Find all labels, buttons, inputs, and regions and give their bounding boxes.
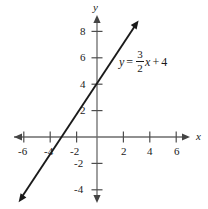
- coordinate-plane: [0, 0, 208, 209]
- equation-annotation: y = 3 2 x + 4: [119, 49, 167, 74]
- equation-variable: x: [145, 56, 150, 68]
- graph-figure: -6 -4 -2 2 4 6 8 6 4 2 -2 -4 x y y = 3 2…: [0, 0, 208, 209]
- x-axis-arrow-left: [14, 133, 22, 140]
- y-tick-label-4: 4: [80, 79, 86, 90]
- equation-constant: 4: [161, 56, 167, 68]
- y-axis-arrow-down: [93, 195, 100, 203]
- x-tick-label-4: 4: [147, 146, 153, 157]
- x-tick-label-6: 6: [174, 146, 180, 157]
- x-axis-arrow-right: [182, 133, 190, 140]
- y-tick-label--2: -2: [74, 158, 83, 169]
- line-arrow-upper-right: [131, 21, 139, 30]
- y-tick-label--4: -4: [74, 184, 83, 195]
- x-tick-label-2: 2: [121, 146, 127, 157]
- equation-fraction: 3 2: [136, 49, 144, 74]
- x-tick-label--2: -2: [70, 146, 79, 157]
- y-tick-label-6: 6: [80, 52, 86, 63]
- y-axis-arrow-up: [93, 15, 100, 23]
- y-axis-label: y: [93, 2, 98, 13]
- equation-equals: =: [126, 56, 133, 68]
- fraction-denominator: 2: [136, 63, 144, 74]
- x-tick-label--4: -4: [44, 146, 53, 157]
- y-tick-label-8: 8: [80, 26, 86, 37]
- x-tick-label--6: -6: [18, 146, 27, 157]
- fraction-numerator: 3: [136, 49, 144, 60]
- equation-plus: +: [152, 56, 159, 68]
- x-axis-label: x: [196, 131, 201, 142]
- equation-lhs: y: [119, 56, 124, 68]
- y-tick-label-2: 2: [80, 105, 86, 116]
